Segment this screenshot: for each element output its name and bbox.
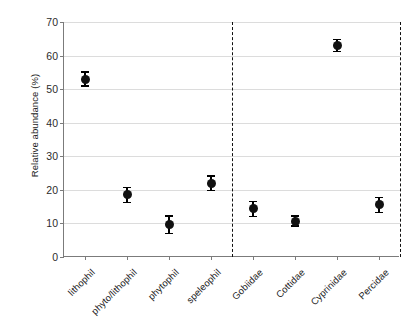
data-marker [207, 179, 216, 188]
error-bar-cap-upper [165, 215, 173, 217]
y-tick-label: 10 [46, 217, 58, 229]
y-tick-label: 30 [46, 150, 58, 162]
y-tick-label: 60 [46, 50, 58, 62]
y-tick-mark [60, 123, 64, 124]
y-tick-mark [60, 190, 64, 191]
data-marker [81, 75, 90, 84]
x-tick-mark [127, 256, 128, 260]
y-tick-mark [60, 56, 64, 57]
error-bar-cap-lower [207, 190, 215, 192]
y-tick-label: 40 [46, 117, 58, 129]
plot-area: 010203040506070 lithophilphyto/lithophil… [63, 22, 399, 257]
x-tick-mark [85, 256, 86, 260]
error-bar-cap-upper [375, 197, 383, 199]
error-bar-cap-lower [375, 212, 383, 214]
data-marker [333, 41, 342, 50]
x-tick-mark [295, 256, 296, 260]
x-tick-mark [169, 256, 170, 260]
error-bar-cap-lower [333, 51, 341, 53]
group-divider-right [400, 22, 401, 257]
y-tick-label: 50 [46, 83, 58, 95]
x-tick-mark [379, 256, 380, 260]
error-bar-cap-upper [249, 201, 257, 203]
y-tick-mark [60, 156, 64, 157]
x-tick-mark [337, 256, 338, 260]
y-tick-mark [60, 257, 64, 258]
error-bar-cap-upper [81, 71, 89, 73]
x-tick-mark [253, 256, 254, 260]
y-tick-label: 0 [52, 251, 58, 263]
error-bar-cap-lower [165, 233, 173, 235]
chart-figure: Relative abundance (%) 010203040506070 l… [0, 0, 418, 334]
data-marker [165, 220, 174, 229]
y-tick-label: 20 [46, 184, 58, 196]
y-tick-mark [60, 89, 64, 90]
group-divider-middle [232, 22, 233, 257]
data-marker [123, 190, 132, 199]
data-marker [375, 200, 384, 209]
data-marker [249, 204, 258, 213]
error-bar-cap-lower [249, 216, 257, 218]
error-bar-cap-upper [123, 187, 131, 189]
y-axis-title: Relative abundance (%) [29, 46, 40, 206]
y-tick-mark [60, 22, 64, 23]
x-tick-mark [211, 256, 212, 260]
error-bar-cap-upper [207, 175, 215, 177]
error-bar-cap-lower [123, 202, 131, 204]
data-marker [291, 217, 300, 226]
y-tick-label: 70 [46, 16, 58, 28]
error-bar-cap-lower [81, 85, 89, 87]
y-tick-mark [60, 223, 64, 224]
